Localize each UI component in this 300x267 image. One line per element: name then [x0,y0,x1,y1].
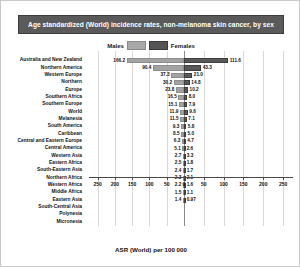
bar-row: 23.810.2 [89,86,293,93]
bar-value-label-females: 14.8 [191,80,200,86]
bar-females [184,117,187,122]
x-axis-tick-label: 250 [279,181,287,187]
y-axis-tick-label: Eastern Africa [1,160,85,167]
bar-females [184,110,188,115]
category-label: Eastern Africa [49,161,82,166]
bar-value-label-females: 2.6 [187,146,194,152]
y-axis-tick-label: Polynesia [1,211,85,218]
bar-value-label-females: 1.7 [187,168,194,174]
x-axis-tick-label: 50 [201,181,207,187]
bar-value-label-males: 2.2 [175,182,182,188]
bar-females [184,146,186,151]
y-axis-category-labels: Australia and New ZealandNorthern Americ… [1,57,85,226]
category-label: South-Eastern Asia [37,168,82,173]
bar-value-label-males: 6.3 [174,138,181,144]
bar-females [184,190,186,195]
y-axis-tick-label: Australia and New Zealand [1,57,85,64]
category-label: Australia and New Zealand [20,58,82,63]
y-axis-tick-label: South-Eastern Asia [1,167,85,174]
bar-value-label-females: 43.3 [203,65,212,71]
bar-males [176,87,184,92]
bar-females [184,154,186,159]
x-axis-tick [167,177,168,180]
bar-rows: 166.2111.690.443.337.321.030.214.823.810… [89,57,293,226]
y-axis-tick-label: Northern [1,79,85,86]
legend-swatch-females [149,41,168,50]
x-axis-tick-label: 200 [259,181,267,187]
bar-females [184,87,188,92]
bar-value-label-females: 5.8 [188,124,195,130]
category-label: World [68,110,82,115]
category-label: Southern Africa [45,95,82,100]
bar-females [184,161,186,166]
x-axis-tick [115,177,116,180]
page-title: Age standardized (World) incidence rates… [28,21,274,28]
bar-females [184,124,186,129]
y-axis-tick-label: Eastern Asia [1,197,85,204]
bar-value-label-males: 37.3 [161,72,170,78]
y-axis-tick-label: Middle Africa [1,189,85,196]
bar-row [89,219,293,226]
x-axis-tick [98,177,99,180]
bar-value-label-males: 30.2 [163,80,172,86]
bar-row: 1.40.97 [89,197,293,204]
x-axis-tick [184,177,185,180]
bars-region: 166.2111.690.443.337.321.030.214.823.810… [89,51,293,226]
bar-value-label-females: 7.1 [188,116,195,122]
y-axis-tick-label: Central and Eastern Europe [1,138,85,145]
bar-value-label-females: 1.8 [187,160,194,166]
x-axis-tick-label: 200 [111,181,119,187]
bar-females [184,139,186,144]
category-label: Micronesia [56,220,82,225]
bar-value-label-males: 11.9 [170,109,179,115]
bar-males [171,73,184,78]
legend-label-females: Females [171,43,195,49]
category-label: Western Africa [48,183,82,188]
bar-males [174,80,184,85]
bar-row: 2.41.7 [89,167,293,174]
bar-males [127,58,184,63]
bar-value-label-females: 21.0 [194,72,203,78]
y-axis-tick-label: South America [1,123,85,130]
x-axis-title: ASR (World) per 100 000 [1,246,300,253]
category-label: Melanesia [59,117,82,122]
bar-row: 30.214.8 [89,79,293,86]
x-axis-tick [243,177,244,180]
y-axis-tick-label: Melanesia [1,116,85,123]
bar-row: 9.35.8 [89,123,293,130]
bar-females [184,65,201,70]
category-label: Central America [45,146,82,151]
bar-value-label-females: 2.1 [187,175,194,181]
y-axis-tick-label: World [1,108,85,115]
x-axis-tick [204,177,205,180]
bar-value-label-males: 90.4 [142,65,151,71]
bar-females [184,132,186,137]
bar-females [184,102,187,107]
category-label: South-Central Asia [38,205,82,210]
bar-row: 6.34.7 [89,138,293,145]
bar-row: 11.99.6 [89,108,293,115]
y-axis-tick-label: Western Asia [1,152,85,159]
y-axis-tick-label: Southern Africa [1,94,85,101]
legend-swatch-males [127,41,146,50]
x-axis-tick-label: 150 [239,181,247,187]
y-axis-tick-label: Northern America [1,64,85,71]
x-axis-tick-label: 100 [219,181,227,187]
bar-row: 2.73.3 [89,152,293,159]
bar-row: 15.17.9 [89,101,293,108]
bar-row: 11.57.1 [89,116,293,123]
bar-value-label-females: 9.6 [189,109,196,115]
y-axis-tick-label: Caribbean [1,130,85,137]
bar-row [89,204,293,211]
y-axis-tick-label: Western Africa [1,182,85,189]
bar-females [184,95,187,100]
bar-row: 90.443.3 [89,64,293,71]
chart-title-bar: Age standardized (World) incidence rates… [18,15,284,34]
y-axis-tick-label: Central America [1,145,85,152]
plot-area: Australia and New ZealandNorthern Americ… [1,51,300,233]
bar-females [184,73,192,78]
category-label: Southern Europe [42,102,82,107]
x-axis-tick-label: 150 [128,181,136,187]
bar-females [184,168,186,173]
category-label: South America [48,124,82,129]
